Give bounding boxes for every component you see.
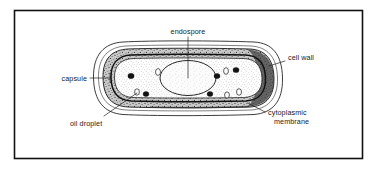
bacterial-cell-figure: endospore cell wall capsule oil droplet … — [0, 0, 378, 169]
granule — [128, 73, 134, 78]
label-cytoplasmic-membrane-line1: cytoplasmic — [268, 108, 307, 117]
label-cell-wall: cell wall — [288, 53, 314, 62]
oil-droplet-shape — [156, 69, 161, 76]
label-capsule: capsule — [62, 74, 87, 83]
granule — [207, 92, 213, 97]
granule — [214, 73, 220, 78]
granule — [143, 92, 149, 97]
oil-droplet-shape — [225, 92, 230, 98]
diagram-canvas: endospore cell wall capsule oil droplet … — [0, 0, 378, 169]
label-endospore: endospore — [171, 27, 206, 36]
label-oil-droplet: oil droplet — [70, 119, 102, 128]
oil-droplet-shape — [224, 68, 229, 75]
granule — [233, 67, 239, 72]
oil-droplet-shape — [237, 89, 242, 96]
label-cytoplasmic-membrane-line2: membrane — [274, 117, 309, 126]
